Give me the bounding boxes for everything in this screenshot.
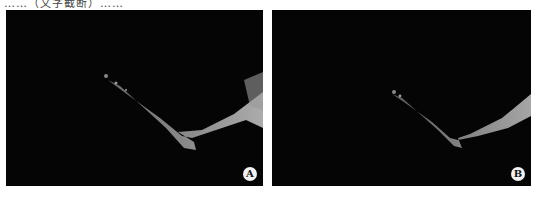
figure-panel-b: B <box>272 10 531 186</box>
rendered-structure-b <box>272 10 531 186</box>
figure-panel-a: A <box>6 10 263 186</box>
panel-label-b: B <box>511 167 525 181</box>
rendered-structure-a <box>6 10 263 186</box>
panel-label-a: A <box>243 167 257 181</box>
caption-fragment: ……（文字截断）…… <box>4 0 124 10</box>
